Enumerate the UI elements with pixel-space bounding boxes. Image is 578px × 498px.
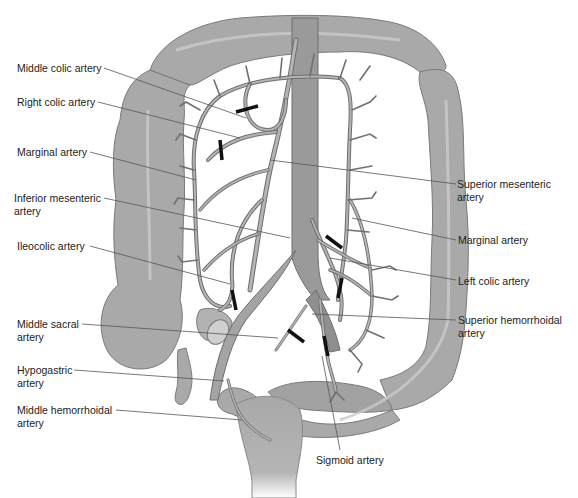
label-superior-hemorrhoidal-artery: Superior hemorrhoidal artery xyxy=(458,314,562,339)
label-sigmoid-artery: Sigmoid artery xyxy=(316,454,384,467)
leader-line-middle-hemorrhoidal xyxy=(116,410,242,420)
appendix xyxy=(175,348,192,405)
label-right-colic-artery: Right colic artery xyxy=(17,96,95,109)
label-middle-hemorrhoidal-artery: Middle hemorrhoidal artery xyxy=(17,404,112,429)
label-hypogastric-artery: Hypogastric artery xyxy=(17,364,72,389)
colon xyxy=(101,15,468,498)
aorta xyxy=(292,18,330,300)
right-colic-branch xyxy=(208,132,276,160)
ligature xyxy=(220,140,222,160)
label-inferior-mesenteric-artery: Inferior mesenteric artery xyxy=(14,192,101,217)
label-left-colic-artery: Left colic artery xyxy=(458,275,529,288)
ligature xyxy=(232,290,236,310)
label-middle-colic-artery: Middle colic artery xyxy=(17,62,102,75)
label-marginal-artery-left: Marginal artery xyxy=(17,146,87,159)
label-middle-sacral-artery: Middle sacral artery xyxy=(17,318,79,343)
label-ileocolic-artery: Ileocolic artery xyxy=(17,240,85,253)
label-superior-mesenteric-artery: Superior mesenteric artery xyxy=(457,178,551,203)
ascending-colon xyxy=(101,70,190,369)
label-marginal-artery-right: Marginal artery xyxy=(458,234,528,247)
rectum xyxy=(236,396,303,498)
leader-line-hypogastric xyxy=(74,370,224,381)
middle-sacral-branch-fill xyxy=(276,306,306,350)
ligature xyxy=(288,330,304,342)
